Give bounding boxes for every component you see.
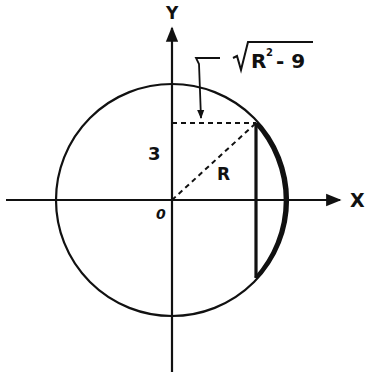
radius-dashed-line	[172, 123, 256, 200]
circle-chord-diagram: Y X 0 3 R R 2 - 9	[0, 0, 375, 372]
leader-line	[196, 58, 220, 118]
x-axis-label: X	[350, 189, 365, 211]
half-chord-label: R 2 - 9	[233, 42, 313, 73]
half-chord-base: R	[251, 49, 266, 73]
origin-label: 0	[156, 206, 166, 222]
y-axis-label: Y	[165, 3, 179, 23]
height-label: 3	[148, 143, 161, 164]
radius-label: R	[217, 164, 230, 184]
half-chord-exponent: 2	[266, 47, 273, 58]
half-chord-rest: - 9	[276, 49, 305, 73]
